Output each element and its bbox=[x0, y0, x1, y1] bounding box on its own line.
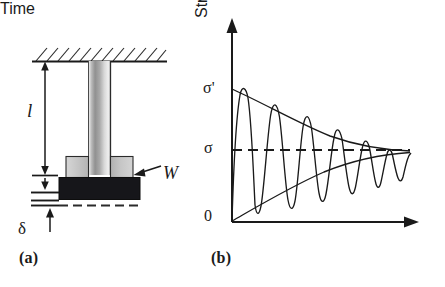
collar-block-right bbox=[111, 157, 134, 178]
y-axis-label: Stress bbox=[193, 0, 211, 18]
y-axis bbox=[227, 18, 238, 222]
suspended-bar-diagram bbox=[0, 0, 200, 250]
length-dimension-arrow bbox=[41, 62, 49, 176]
weight-label: W bbox=[163, 163, 178, 184]
delta-dimension-group bbox=[31, 178, 59, 232]
sigma-tick-label: σ bbox=[204, 139, 213, 157]
weight-block bbox=[59, 178, 140, 200]
origin-tick-label: 0 bbox=[204, 207, 212, 225]
panel-a-caption: (a) bbox=[19, 249, 38, 267]
damped-stress-chart bbox=[210, 0, 445, 250]
vertical-rod bbox=[89, 61, 111, 175]
x-axis bbox=[232, 217, 419, 228]
weight-leader-arrow bbox=[134, 166, 162, 177]
lower-envelope-curve bbox=[232, 153, 410, 222]
figure-root: l δ W (a) Stress σ' σ 0 Time (b) bbox=[0, 0, 445, 287]
ceiling-hatch-icon bbox=[36, 48, 166, 61]
sigma-prime-tick-label: σ' bbox=[203, 79, 215, 97]
upper-envelope-curve bbox=[232, 89, 410, 151]
length-label: l bbox=[27, 100, 32, 122]
collar-block-left bbox=[66, 157, 89, 178]
panel-b-caption: (b) bbox=[211, 249, 231, 267]
deflection-label: δ bbox=[18, 219, 26, 239]
